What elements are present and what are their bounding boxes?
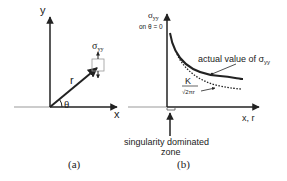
actual-label: actual value of σyy [198, 54, 270, 65]
actual-pointer-dot [211, 73, 214, 76]
panel-b: σyy on θ = 0 x, r actual value of σyy K … [124, 10, 270, 171]
zone-label-2: zone [161, 147, 181, 157]
x-label-a: x [114, 108, 120, 120]
caption-a: (a) [68, 158, 81, 171]
y-label-b: σyy [148, 10, 159, 21]
theta-label: θ [64, 98, 69, 110]
y-note-b: on θ = 0 [139, 23, 163, 30]
stress-element [92, 59, 104, 71]
k-pointer [201, 88, 215, 91]
r-label: r [70, 74, 74, 86]
zone-label-1: singularity dominated [124, 137, 209, 147]
k-numerator: K [185, 76, 191, 86]
theta-arc [60, 100, 63, 108]
caption-b: (b) [177, 158, 190, 171]
k-denominator: √2πr [182, 89, 195, 95]
y-label-a: y [40, 4, 46, 16]
diagram: y x r θ σyy (a) σyy on θ = 0 x, r actual… [0, 0, 287, 181]
stress-label-a: σyy [92, 40, 103, 52]
x-label-b: x, r [242, 113, 255, 123]
panel-a: y x r θ σyy (a) [14, 4, 120, 171]
actual-pointer [212, 64, 236, 74]
zone-brace [167, 108, 175, 110]
